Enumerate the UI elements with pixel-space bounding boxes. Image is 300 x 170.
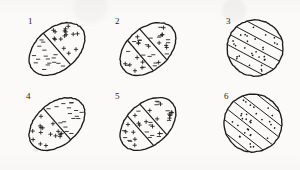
divider-line <box>236 15 293 45</box>
divider-line <box>41 30 74 68</box>
figure-label-5: 5 <box>115 91 120 101</box>
figure-6: 6 <box>209 80 297 166</box>
figure-5: 5 <box>107 84 188 164</box>
figure-label-6: 6 <box>224 91 229 101</box>
figure-label-2: 2 <box>115 16 120 26</box>
figure-body-6 <box>209 80 297 166</box>
figure-canvas: 123456 <box>0 0 300 170</box>
divider-line <box>218 114 270 155</box>
figure-4: 4 <box>16 84 97 164</box>
divider-line <box>222 42 279 72</box>
figure-2: 2 <box>108 9 189 89</box>
divider-line <box>217 51 274 81</box>
figure-sheet: 123456 <box>0 0 300 170</box>
divider-line <box>41 105 74 143</box>
divider-line <box>242 83 294 124</box>
figure-outline <box>110 87 186 161</box>
figure-3: 3 <box>213 8 296 88</box>
figure-outline <box>110 12 186 86</box>
figure-label-4: 4 <box>26 91 31 101</box>
figure-label-3: 3 <box>226 16 231 26</box>
figure-1: 1 <box>17 9 98 89</box>
figure-label-1: 1 <box>28 16 33 26</box>
figure-body-5 <box>107 84 188 164</box>
figure-body-2 <box>108 9 189 89</box>
divider-line <box>211 122 263 163</box>
divider-line <box>224 106 276 147</box>
divider-line <box>231 24 288 54</box>
divider-line <box>236 91 288 132</box>
